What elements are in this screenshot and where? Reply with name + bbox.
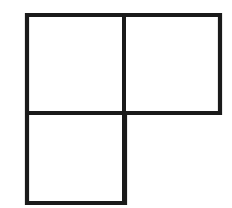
square-bottom-right-empty bbox=[125, 113, 220, 203]
square-top-right-fill bbox=[124, 15, 220, 113]
figure-canvas bbox=[0, 0, 232, 208]
square-bottom-left-fill bbox=[27, 113, 125, 203]
tromino-diagram bbox=[0, 0, 232, 208]
square-top-left-fill bbox=[27, 15, 124, 113]
